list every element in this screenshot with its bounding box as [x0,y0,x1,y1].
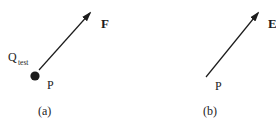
test-charge-dot [30,71,39,80]
point-label-b: P [215,79,222,93]
charge-label: Q [8,50,17,64]
field-vector-label: E [268,16,276,31]
charge-label-subscript: test [18,58,29,67]
point-label-a: P [47,78,54,92]
panel-a-caption: (a) [38,104,51,118]
panel-a: Q test F P (a) [8,13,109,118]
panel-b: E P (b) [203,13,276,118]
diagram-canvas: Q test F P (a) E P (b) [0,0,276,123]
force-vector-label: F [101,16,109,31]
field-vector-arrow [206,13,258,77]
panel-b-caption: (b) [203,104,217,118]
physics-vector-figure: Q test F P (a) E P (b) [0,0,276,123]
force-vector-arrow [39,13,90,70]
